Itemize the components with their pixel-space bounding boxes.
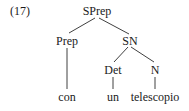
node-prep: Prep [56,34,78,48]
edge-sn-n [131,47,154,62]
node-n: N [151,63,160,77]
leaf-un: un [107,90,119,104]
node-det: Det [104,63,122,77]
node-sprep: SPrep [83,4,112,18]
edge-sn-det [114,47,128,62]
node-sn: SN [122,34,138,48]
example-number: (17) [10,4,30,18]
leaf-con: con [58,90,75,104]
syntax-tree: (17) SPrep Prep SN Det N con un telescop… [0,0,189,111]
edge-sprep-prep [69,18,95,33]
leaf-telescopio: telescopio [131,90,180,104]
edge-sprep-sn [99,18,129,34]
